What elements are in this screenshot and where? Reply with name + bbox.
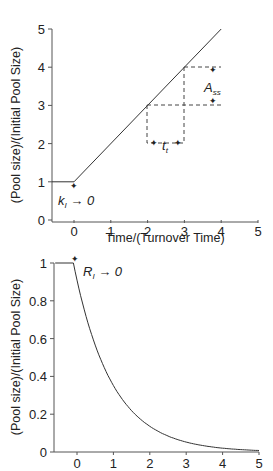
y-tick-label: 0.2 [29,407,47,422]
bottom-chart: 00.20.40.60.81 012345 (Pool size)/(Initi… [9,254,263,471]
y-tick-label: 4 [38,60,45,75]
bottom-x-ticks: 012345 [73,452,262,471]
x-tick-label: 3 [183,456,190,471]
top-y-ticks: 012345 [38,22,52,228]
arrow-down-icon: ✦ [209,96,217,106]
ass-annotation: Ass [203,80,221,97]
arrow-left-icon: ✦ [150,138,158,148]
kt-annotation: kI → 0 [58,193,95,210]
rt-annotation: RI → 0 [83,264,123,281]
x-tick-label: 5 [255,456,262,471]
top-chart: 012345 012345 Time/(Turnover Time) (Pool… [9,22,262,245]
top-x-label: Time/(Turnover Time) [105,231,224,245]
y-tick-label: 0 [38,213,45,228]
top-series-line [52,29,221,182]
y-tick-label: 3 [38,98,45,113]
bottom-y-ticks: 00.20.40.60.81 [29,256,54,460]
tau-annotation: tt [162,138,169,155]
y-tick-label: 0 [40,445,47,460]
x-tick-label: 0 [73,456,80,471]
bottom-series-line [55,263,259,451]
y-tick-label: 0.4 [29,369,47,384]
top-y-label: (Pool size)/(Initial Pool Size) [9,47,23,203]
y-tick-label: 2 [38,137,45,152]
x-tick-label: 0 [70,224,77,239]
bottom-y-label: (Pool size)/(Initial Pool Size) [9,279,23,435]
y-tick-label: 0.8 [29,294,47,309]
x-tick-label: 5 [254,224,261,239]
start-marker-icon: ✦ [71,254,79,264]
figure: 012345 012345 Time/(Turnover Time) (Pool… [0,0,273,471]
x-tick-label: 2 [146,456,153,471]
y-tick-label: 1 [40,256,47,271]
start-marker-icon: ✦ [70,181,78,191]
arrow-up-icon: ✦ [209,65,217,75]
x-tick-label: 1 [110,456,117,471]
y-tick-label: 0.6 [29,332,47,347]
x-tick-label: 4 [219,456,226,471]
arrow-right-icon: ✦ [174,138,182,148]
y-tick-label: 5 [38,22,45,37]
y-tick-label: 1 [38,175,45,190]
